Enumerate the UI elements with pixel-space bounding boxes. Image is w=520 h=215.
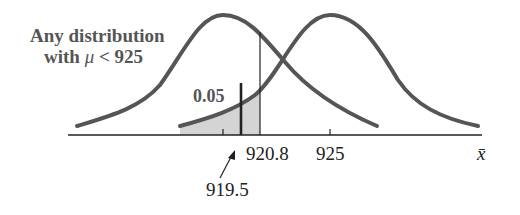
area-label: 0.05 (193, 86, 225, 106)
curve-right-distribution (180, 15, 478, 126)
title-line-1: Any distribution (30, 25, 165, 46)
diagram-canvas: Any distribution with μ < 925 0.05 920.8… (0, 0, 520, 215)
axis-label-xbar: x̄ (476, 143, 486, 164)
title-line-2: with μ < 925 (44, 46, 143, 67)
tick-label-920-8: 920.8 (246, 143, 289, 164)
tick-label-925: 925 (316, 143, 345, 164)
arrow-head-icon (228, 150, 235, 160)
annotation-919-5: 919.5 (206, 179, 249, 200)
